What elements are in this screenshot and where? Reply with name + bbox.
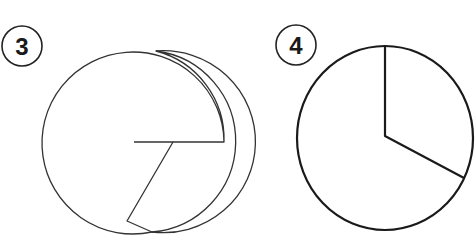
figure-3: 3 bbox=[2, 26, 255, 234]
figure-3-shape bbox=[42, 51, 236, 234]
figure-4-label: 4 bbox=[276, 25, 316, 65]
figure-4-radii bbox=[385, 46, 464, 178]
diagram-canvas: 3 4 bbox=[0, 0, 475, 239]
figure-3-cut-line bbox=[127, 142, 173, 232]
figure-4: 4 bbox=[276, 25, 473, 230]
figure-4-number: 4 bbox=[289, 32, 303, 59]
figure-3-label: 3 bbox=[2, 26, 42, 66]
figure-3-number: 3 bbox=[15, 33, 28, 60]
